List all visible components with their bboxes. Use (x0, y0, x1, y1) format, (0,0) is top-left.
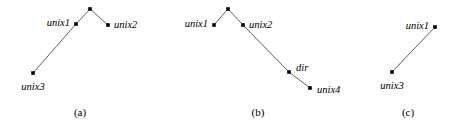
graph-edge (214, 9, 228, 25)
graph-node[interactable] (308, 86, 312, 90)
figure-container: unix1unix2unix3(a)unix1unix2dirunix4(b)u… (0, 0, 454, 126)
graph-edge (90, 9, 108, 25)
node-label-dir: dir (296, 63, 308, 74)
graph-node[interactable] (31, 71, 35, 75)
graph-node[interactable] (88, 7, 92, 11)
graph-edge (392, 27, 435, 72)
node-label-unix3: unix3 (21, 82, 44, 93)
node-label-unix1: unix1 (47, 18, 70, 29)
node-label-unix2: unix2 (114, 20, 137, 31)
node-label-unix4: unix4 (317, 85, 340, 96)
graph-edge (228, 9, 243, 25)
graph-edge (289, 72, 310, 88)
graph-node[interactable] (433, 25, 437, 29)
node-label-unix3: unix3 (380, 81, 403, 92)
panel-caption-panel-c: (c) (402, 106, 414, 118)
panel-caption-panel-b: (b) (252, 106, 265, 118)
panel-caption-panel-a: (a) (74, 106, 86, 118)
graph-edge (33, 24, 76, 73)
graph-edge (243, 25, 289, 72)
graph-node[interactable] (390, 70, 394, 74)
node-label-unix1: unix1 (185, 19, 208, 30)
node-label-unix1: unix1 (406, 21, 429, 32)
graph-node[interactable] (287, 70, 291, 74)
graph-edge (76, 9, 90, 24)
graph-node[interactable] (226, 7, 230, 11)
graph-node[interactable] (241, 23, 245, 27)
graph-node[interactable] (212, 23, 216, 27)
graph-node[interactable] (74, 22, 78, 26)
node-label-unix2: unix2 (249, 20, 272, 31)
graph-node[interactable] (106, 23, 110, 27)
